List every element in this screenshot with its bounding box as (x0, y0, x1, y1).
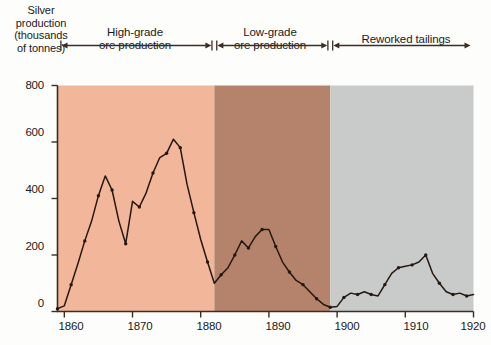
data-point (151, 171, 154, 174)
bracket-high-grade-arrowhead-right (205, 43, 211, 49)
data-point (56, 307, 59, 310)
plot-area (0, 0, 491, 345)
data-point (451, 293, 454, 296)
data-point (124, 242, 127, 245)
data-point (260, 228, 263, 231)
data-point (315, 297, 318, 300)
data-point (356, 293, 359, 296)
data-point (274, 245, 277, 248)
data-point (219, 273, 222, 276)
data-point (329, 306, 332, 309)
bracket-reworked-tailings-arrowhead-left (333, 43, 339, 49)
bracket-low-grade-arrowhead-right (321, 43, 327, 49)
data-point (206, 260, 209, 263)
data-point (165, 152, 168, 155)
data-point (438, 282, 441, 285)
data-point (465, 294, 468, 297)
data-point (110, 188, 113, 191)
data-point (301, 283, 304, 286)
bracket-low-grade-arrowhead-left (217, 43, 223, 49)
chart-figure: Silver production (thousands of tonnes) … (0, 0, 491, 345)
data-point (424, 253, 427, 256)
data-point (410, 263, 413, 266)
data-point (342, 296, 345, 299)
data-point (233, 253, 236, 256)
data-point (69, 283, 72, 286)
data-point (83, 239, 86, 242)
data-point (247, 246, 250, 249)
data-point (370, 293, 373, 296)
data-point (179, 146, 182, 149)
band-reworked-tailings (330, 86, 473, 312)
data-point (288, 270, 291, 273)
data-point (383, 283, 386, 286)
data-point (192, 211, 195, 214)
data-point (397, 266, 400, 269)
data-point (138, 205, 141, 208)
data-point (97, 194, 100, 197)
bracket-high-grade-arrowhead-left (62, 43, 68, 49)
band-low-grade (214, 86, 330, 312)
bracket-reworked-tailings-arrowhead-right (465, 43, 471, 49)
